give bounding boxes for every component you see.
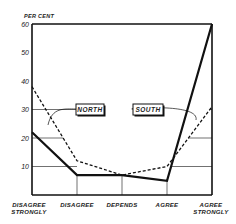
- y-tick-label: 60: [21, 21, 29, 28]
- legend-label: SOUTH: [135, 106, 160, 113]
- x-axis: DISAGREESTRONGLYDISAGREEDEPENDSAGREEAGRE…: [11, 202, 229, 215]
- x-category-label: DEPENDS: [106, 202, 137, 208]
- x-category-label: DISAGREE: [60, 202, 94, 208]
- y-tick-label: 10: [21, 163, 29, 170]
- x-category-label: STRONGLY: [11, 209, 47, 215]
- series-south-line: [32, 24, 212, 181]
- y-axis: 102030405060PER CENT: [20, 13, 54, 170]
- x-category-label: DISAGREE: [12, 202, 46, 208]
- x-category-label: AGREE: [155, 202, 180, 208]
- legend-label: NORTH: [77, 106, 103, 113]
- x-category-label: STRONGLY: [193, 209, 229, 215]
- y-tick-label: 30: [21, 106, 29, 113]
- plot-frame: [32, 24, 212, 195]
- series-north-line: [32, 87, 212, 175]
- y-tick-label: 50: [21, 49, 29, 56]
- y-tick-label: 40: [21, 78, 29, 85]
- y-tick-label: 20: [20, 135, 29, 142]
- legend: NORTHSOUTH: [48, 104, 196, 125]
- series-lines: [32, 24, 212, 181]
- line-chart: 102030405060PER CENT DISAGREESTRONGLYDIS…: [0, 0, 236, 224]
- legend-leader-line: [48, 109, 76, 125]
- y-axis-title: PER CENT: [24, 13, 55, 19]
- x-category-label: AGREE: [199, 202, 224, 208]
